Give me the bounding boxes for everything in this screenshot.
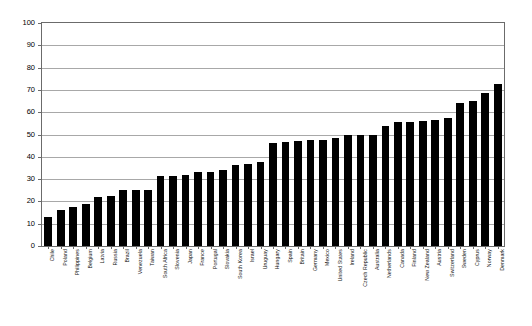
- x-axis-category-label: Slovakia: [225, 249, 230, 269]
- y-axis-tick-label: 20: [5, 197, 35, 205]
- x-axis-category-label: Philippines: [75, 249, 80, 275]
- y-axis-tick: [38, 23, 41, 24]
- x-axis-category-label: Venezuela: [138, 249, 143, 274]
- bar: [469, 101, 477, 246]
- x-axis-category-label: Slovenia: [175, 249, 180, 270]
- y-axis-tick-label: 80: [5, 64, 35, 72]
- x-axis-category-label: Russia: [113, 249, 118, 265]
- y-axis-tick: [38, 157, 41, 158]
- x-axis-category-label: Austria: [437, 249, 442, 266]
- x-axis-category-label: Spain: [288, 249, 293, 263]
- x-axis-tick: [360, 246, 361, 249]
- y-axis-tick: [38, 224, 41, 225]
- x-axis-category-label: South Korea: [238, 249, 243, 279]
- bar: [282, 142, 290, 246]
- bar: [169, 176, 177, 246]
- x-axis-category-label: Finland: [412, 249, 417, 267]
- bar: [182, 175, 190, 246]
- x-axis-category-label: Czech Republic: [363, 249, 368, 287]
- bar: [431, 120, 439, 246]
- x-axis-category-label: Switzerland: [450, 249, 455, 277]
- bar: [269, 143, 277, 246]
- y-axis-tick: [38, 179, 41, 180]
- bar: [419, 121, 427, 246]
- y-axis-tick-label: 100: [5, 19, 35, 27]
- y-axis-tick-label: 10: [5, 220, 35, 228]
- bar: [406, 122, 414, 246]
- y-axis-tick: [38, 112, 41, 113]
- bar: [257, 162, 265, 246]
- bar: [456, 103, 464, 246]
- y-axis-tick: [38, 90, 41, 91]
- x-axis-category-label: Poland: [63, 249, 68, 266]
- y-axis-tick: [38, 246, 41, 247]
- y-axis-tick-label: 70: [5, 86, 35, 94]
- x-axis-labels: ChilePolandPhilippinesBelgiumLatviaRussi…: [42, 249, 504, 323]
- y-axis-tick-label: 0: [5, 242, 35, 250]
- bar: [382, 126, 390, 246]
- bar: [207, 172, 215, 246]
- bar-chart: 0102030405060708090100 ChilePolandPhilip…: [0, 0, 532, 326]
- x-axis-category-label: Hungary: [275, 249, 280, 269]
- x-axis-category-label: United States: [338, 249, 343, 281]
- bar: [132, 190, 140, 246]
- y-axis-tick: [38, 45, 41, 46]
- bar: [357, 135, 365, 247]
- y-axis-tick-label: 50: [5, 131, 35, 139]
- y-axis-tick-label: 40: [5, 153, 35, 161]
- y-axis-tick: [38, 201, 41, 202]
- x-axis-category-label: Brazil: [125, 249, 130, 263]
- y-axis-tick: [38, 68, 41, 69]
- bar: [307, 140, 315, 246]
- x-axis-category-label: Netherlands: [387, 249, 392, 278]
- x-axis-category-label: France: [200, 249, 205, 266]
- x-axis-category-label: Denmark: [500, 249, 505, 271]
- y-axis-tick-label: 30: [5, 175, 35, 183]
- bar: [394, 122, 402, 246]
- bar: [294, 141, 302, 246]
- x-axis-category-label: Taiwan: [150, 249, 155, 266]
- bar: [94, 197, 102, 246]
- x-axis-category-label: Norway: [487, 249, 492, 267]
- bar: [69, 207, 77, 246]
- bar: [157, 176, 165, 246]
- x-axis-category-label: Uruguay: [263, 249, 268, 269]
- x-axis-tick: [310, 246, 311, 249]
- x-axis-tick: [335, 246, 336, 249]
- bar: [369, 135, 377, 247]
- bar: [344, 135, 352, 247]
- y-axis-tick: [38, 135, 41, 136]
- x-axis-category-label: South Africa: [163, 249, 168, 278]
- bar: [194, 172, 202, 246]
- bar-series: [42, 23, 504, 246]
- bar: [232, 165, 240, 246]
- bar: [144, 190, 152, 246]
- x-axis-category-label: Ireland: [350, 249, 355, 266]
- bar: [332, 138, 340, 246]
- bar: [119, 190, 127, 246]
- x-axis-category-label: Chile: [50, 249, 55, 261]
- bar: [494, 84, 502, 246]
- x-axis-category-label: Britain: [300, 249, 305, 264]
- x-axis-category-label: Latvia: [100, 249, 105, 263]
- bar: [244, 164, 252, 247]
- bar: [219, 170, 227, 246]
- x-axis-category-label: Belgium: [88, 249, 93, 268]
- bar: [319, 140, 327, 246]
- bar: [44, 217, 52, 246]
- y-axis-tick-label: 60: [5, 108, 35, 116]
- x-axis-category-label: Canada: [400, 249, 405, 268]
- bar: [444, 118, 452, 246]
- x-axis-category-label: Sweden: [462, 249, 467, 268]
- x-axis-category-label: Australia: [375, 249, 380, 270]
- x-axis-category-label: Israel: [250, 249, 255, 262]
- x-axis-tick: [285, 246, 286, 249]
- bar: [107, 196, 115, 246]
- y-axis-tick-label: 90: [5, 41, 35, 49]
- x-axis-category-label: Japan: [188, 249, 193, 264]
- x-axis-category-label: Cyprus: [475, 249, 480, 266]
- bar: [57, 210, 65, 246]
- x-axis-category-label: Portugal: [213, 249, 218, 269]
- bar: [82, 204, 90, 246]
- bar: [481, 93, 489, 246]
